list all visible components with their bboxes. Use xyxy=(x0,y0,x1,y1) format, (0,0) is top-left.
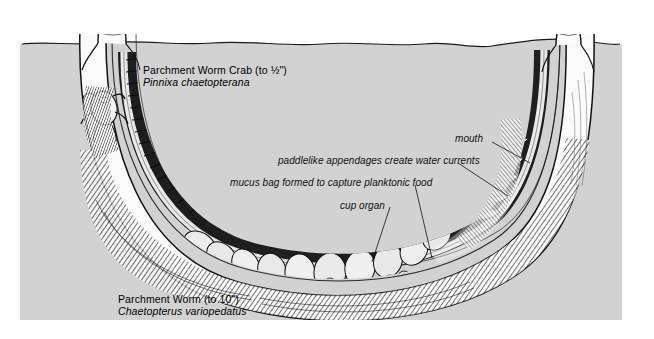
illustration-plate: Parchment Worm Crab (to ½") Pinnixa chae… xyxy=(0,0,654,339)
parchment-worm-diagram xyxy=(0,0,654,339)
